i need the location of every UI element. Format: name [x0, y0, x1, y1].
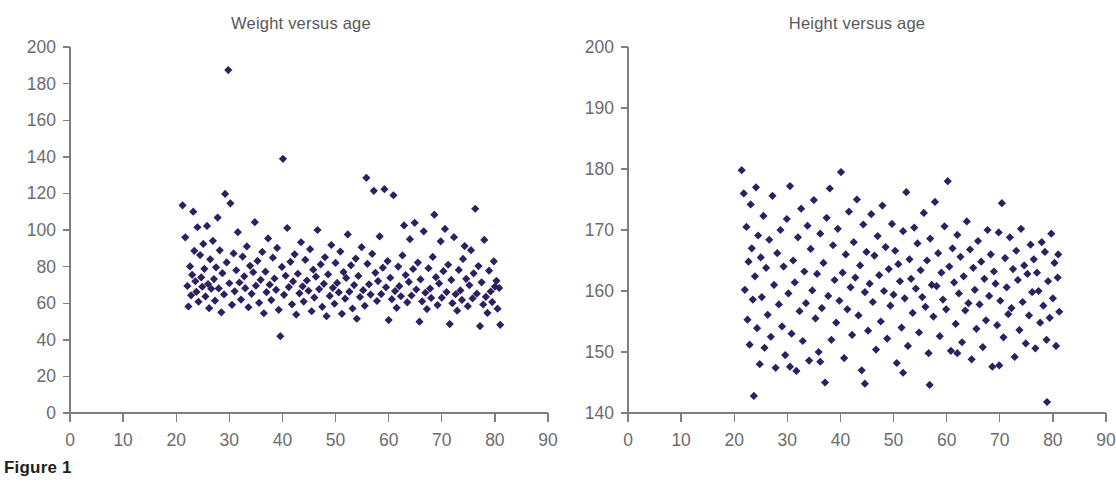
data-point — [289, 277, 297, 285]
data-point — [995, 228, 1003, 236]
data-point — [1054, 273, 1062, 281]
data-point — [816, 230, 824, 238]
data-point — [1033, 269, 1041, 277]
data-point — [802, 299, 810, 307]
y-tick-label: 120 — [27, 183, 56, 203]
data-point — [784, 289, 792, 297]
data-point — [348, 304, 356, 312]
data-point — [751, 272, 759, 280]
data-point — [270, 274, 278, 282]
data-point — [797, 205, 805, 213]
y-tick-label: 140 — [27, 147, 56, 167]
data-point — [444, 261, 452, 269]
data-point — [212, 263, 220, 271]
data-point — [203, 222, 211, 230]
data-point — [831, 276, 839, 284]
data-point — [758, 293, 766, 301]
x-tick-label: 60 — [937, 430, 957, 450]
data-point — [982, 316, 990, 324]
data-point — [493, 305, 501, 313]
data-point — [299, 282, 307, 290]
data-point — [910, 223, 918, 231]
data-point — [883, 334, 891, 342]
data-point — [409, 265, 417, 273]
data-point — [200, 265, 208, 273]
data-point — [757, 253, 765, 261]
data-point — [393, 304, 401, 312]
data-point — [210, 275, 218, 283]
data-point — [765, 236, 773, 244]
data-point — [374, 277, 382, 285]
data-point — [471, 205, 479, 213]
data-point — [875, 271, 883, 279]
data-point — [380, 185, 388, 193]
data-point — [786, 363, 794, 371]
data-point — [251, 218, 259, 226]
data-point — [258, 248, 266, 256]
x-tick-label: 70 — [432, 430, 452, 450]
data-point — [345, 288, 353, 296]
data-point — [201, 292, 209, 300]
data-point — [193, 223, 201, 231]
data-point — [974, 237, 982, 245]
data-point — [488, 298, 496, 306]
axis-spine — [70, 47, 548, 413]
data-point — [925, 349, 933, 357]
data-point — [403, 298, 411, 306]
data-point — [423, 305, 431, 313]
data-point — [338, 310, 346, 318]
data-point — [979, 343, 987, 351]
data-point — [1026, 241, 1034, 249]
data-point — [464, 302, 472, 310]
data-point — [762, 264, 770, 272]
data-point — [303, 276, 311, 284]
data-point — [272, 286, 280, 294]
data-point — [453, 307, 461, 315]
data-point — [948, 244, 956, 252]
data-point — [357, 243, 365, 251]
data-point — [964, 299, 972, 307]
data-point — [300, 297, 308, 305]
data-point — [742, 223, 750, 231]
data-point — [816, 358, 824, 366]
data-point — [217, 308, 225, 316]
data-point — [998, 199, 1006, 207]
data-point — [744, 258, 752, 266]
data-point — [985, 292, 993, 300]
data-point — [972, 325, 980, 333]
y-tick-label: 100 — [27, 220, 56, 240]
data-point — [354, 272, 362, 280]
data-point — [940, 222, 948, 230]
data-point — [190, 247, 198, 255]
data-point — [273, 244, 281, 252]
data-point — [754, 231, 762, 239]
data-point — [1041, 248, 1049, 256]
data-point — [194, 298, 202, 306]
data-point — [760, 344, 768, 352]
data-point — [923, 256, 931, 264]
data-point — [920, 209, 928, 217]
data-point — [313, 226, 321, 234]
data-point — [439, 267, 447, 275]
y-tick-label: 150 — [585, 342, 614, 362]
data-point — [770, 281, 778, 289]
data-point — [189, 208, 197, 216]
data-point — [309, 266, 317, 274]
data-point — [295, 289, 303, 297]
data-point-group — [178, 66, 504, 340]
x-tick-label: 0 — [65, 430, 75, 450]
data-point — [987, 250, 995, 258]
data-point — [874, 232, 882, 240]
data-point — [1049, 294, 1057, 302]
data-point — [405, 278, 413, 286]
data-point — [362, 174, 370, 182]
data-point — [961, 306, 969, 314]
data-point — [352, 254, 360, 262]
data-point — [248, 290, 256, 298]
data-point — [234, 228, 242, 236]
data-point — [821, 378, 829, 386]
data-point — [945, 263, 953, 271]
data-point — [1047, 230, 1055, 238]
data-point — [983, 226, 991, 234]
data-point — [356, 293, 364, 301]
